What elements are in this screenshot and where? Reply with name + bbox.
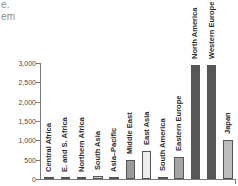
y-axis-tick-mark (36, 179, 40, 180)
y-axis-tick-mark (36, 160, 40, 161)
y-axis-tick-label: 2,000 (18, 98, 36, 105)
bar-category-label: South Asia (92, 131, 101, 170)
bar-group: Japan (223, 63, 232, 179)
bar-group: Middle East (126, 63, 135, 179)
bar-category-label: South America (157, 118, 166, 171)
bar (44, 177, 53, 179)
bar-category-label: Asia–Pacific (109, 128, 118, 172)
bar (191, 65, 200, 179)
bar-group: South America (158, 63, 167, 179)
bar (158, 177, 167, 179)
y-axis-tick-label: 2,500 (18, 79, 36, 86)
bar (126, 160, 135, 179)
bar-category-label: E. and S. Africa (60, 117, 69, 172)
bar-chart: 05001,0001,5002,0002,5003,000 Central Af… (0, 56, 238, 186)
y-axis-tick-label: 500 (24, 156, 36, 163)
bar-category-label: Middle East (125, 112, 134, 154)
y-axis-tick-mark (36, 82, 40, 83)
document-text-fragment-2: em (1, 11, 15, 22)
bar-group: East Asia (142, 63, 151, 179)
bar-category-label: Northern Africa (76, 117, 85, 172)
bar-group: Central Africa (44, 63, 53, 179)
bar-category-label: North America (190, 8, 199, 59)
bar-group: E. and S. Africa (61, 63, 70, 179)
y-axis-tick-labels: 05001,0001,5002,0002,5003,000 (0, 56, 36, 180)
bar-group: Asia–Pacific (109, 63, 118, 179)
bar (61, 177, 70, 179)
y-axis-tick-mark (36, 102, 40, 103)
y-axis-tick-mark (36, 140, 40, 141)
bar (174, 157, 183, 179)
bar-category-label: Eastern Europe (174, 95, 183, 150)
document-text-fragment-1: e. (1, 0, 10, 10)
bar (109, 177, 118, 179)
bar-category-label: Japan (222, 113, 231, 135)
bar (142, 151, 151, 179)
bar-group: North America (191, 63, 200, 179)
bar-category-label: Central Africa (44, 123, 53, 172)
y-axis-tick-label: 1,000 (18, 137, 36, 144)
y-axis-tick-label: 1,500 (18, 118, 36, 125)
chart-screenshot: e. em 05001,0001,5002,0002,5003,000 Cent… (0, 0, 238, 186)
plot-area: Central AfricaE. and S. AfricaNorthern A… (41, 63, 236, 179)
x-axis-line (40, 179, 236, 180)
y-axis-tick-mark (36, 121, 40, 122)
bar (207, 65, 216, 179)
bar-group: South Asia (93, 63, 102, 179)
bar (93, 176, 102, 179)
bar (223, 140, 232, 179)
bar-group: Western Europe (207, 63, 216, 179)
y-axis-tick-label: 3,000 (18, 60, 36, 67)
bar-category-label: East Asia (141, 112, 150, 146)
bar-group: Northern Africa (77, 63, 86, 179)
bar (77, 177, 86, 179)
bar-group: Eastern Europe (174, 63, 183, 179)
x-axis-end-tick (235, 180, 236, 184)
y-axis-tick-mark (36, 63, 40, 64)
bar-category-label: Western Europe (206, 2, 215, 59)
